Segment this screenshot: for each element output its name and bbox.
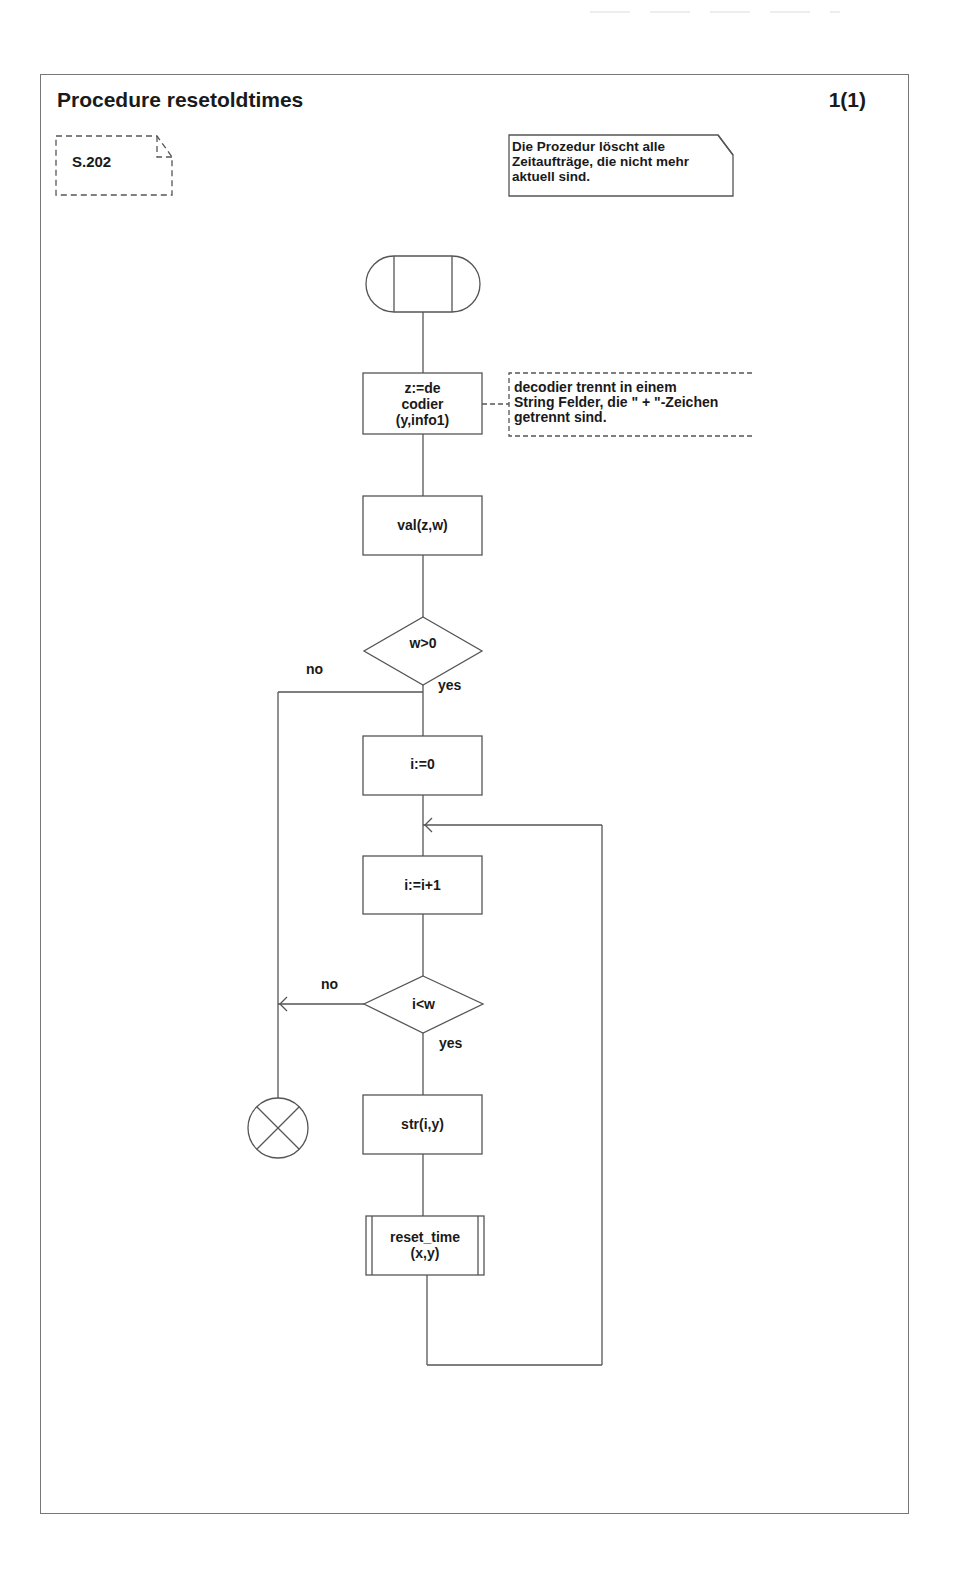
- task-init-i-label: i:=0: [363, 756, 482, 772]
- stop-symbol: [248, 1098, 308, 1158]
- procedure-call-label: reset_time (x,y): [366, 1229, 484, 1261]
- comment-line: String Felder, die " + "-Zeichen: [514, 395, 718, 410]
- task-str-label: str(i,y): [363, 1116, 482, 1132]
- description-line: Zeitaufträge, die nicht mehr: [512, 154, 689, 169]
- description-note-text: Die Prozedur löscht alle Zeitaufträge, d…: [512, 139, 689, 184]
- branch-label-w-yes: yes: [438, 677, 461, 693]
- flowchart-canvas: [0, 0, 956, 1583]
- task-decode-label: z:=de codier (y,info1): [363, 380, 482, 428]
- procedure-start-symbol: [366, 256, 480, 312]
- reference-note-label: S.202: [72, 153, 111, 170]
- branch-label-w-no: no: [306, 661, 323, 677]
- label-line: (x,y): [366, 1245, 484, 1261]
- decision-w-label: w>0: [364, 635, 482, 651]
- comment-line: getrennt sind.: [514, 410, 718, 425]
- description-line: Die Prozedur löscht alle: [512, 139, 689, 154]
- label-line: (y,info1): [363, 412, 482, 428]
- label-line: reset_time: [366, 1229, 484, 1245]
- decision-w-diamond: [364, 617, 482, 685]
- label-line: codier: [363, 396, 482, 412]
- decision-i-label: i<w: [364, 996, 483, 1012]
- branch-label-i-yes: yes: [439, 1035, 462, 1051]
- comment-line: decodier trennt in einem: [514, 380, 718, 395]
- label-line: z:=de: [363, 380, 482, 396]
- task-val-label: val(z,w): [363, 517, 482, 533]
- branch-label-i-no: no: [321, 976, 338, 992]
- description-line: aktuell sind.: [512, 169, 689, 184]
- task-inc-i-label: i:=i+1: [363, 877, 482, 893]
- decode-comment-text: decodier trennt in einem String Felder, …: [514, 380, 718, 425]
